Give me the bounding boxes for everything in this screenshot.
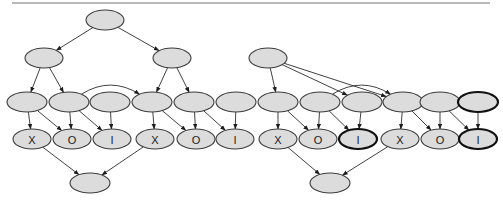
edge-l1-to-b1 (43, 147, 79, 174)
node-shape (310, 173, 350, 193)
edge-n8-to-l5 (162, 111, 186, 131)
edge-n5-to-l2 (37, 111, 61, 131)
node-shape (93, 129, 131, 149)
edge-n8-to-l4 (153, 112, 154, 129)
node-l11-O[interactable]: O (421, 129, 459, 149)
edge-n14-to-l11 (412, 111, 431, 130)
node-l10-X[interactable]: X (381, 129, 419, 149)
node-n3[interactable] (153, 48, 191, 68)
node-shape (249, 48, 287, 68)
edge-n12-to-l8 (319, 112, 320, 129)
node-n5[interactable] (7, 92, 47, 112)
edge-n5-to-l1 (28, 112, 30, 129)
node-shape (339, 129, 377, 149)
node-l6-I[interactable]: I (216, 129, 254, 149)
node-shape (53, 129, 91, 149)
top-divider-rule (12, 2, 490, 4)
node-l12-I[interactable]: I (459, 129, 497, 149)
node-n12[interactable] (300, 92, 340, 112)
node-n1[interactable] (86, 10, 124, 30)
graph-svg: XOIXOIXOIXOI (0, 0, 503, 209)
edge-n4-to-n11 (270, 68, 275, 92)
node-shape (420, 92, 460, 112)
node-l8-O[interactable]: O (299, 129, 337, 149)
node-n16[interactable] (458, 92, 498, 112)
node-shape (70, 173, 110, 193)
edge-l7-to-b2 (288, 147, 320, 174)
node-shape (299, 129, 337, 149)
edge-n7-to-l3 (111, 112, 112, 129)
edge-l10-to-b2 (342, 147, 387, 176)
node-shape (7, 92, 47, 112)
node-n11[interactable] (258, 92, 298, 112)
node-n9[interactable] (174, 92, 214, 112)
node-n6[interactable] (49, 92, 89, 112)
node-b1[interactable] (70, 173, 110, 193)
edge-n11-to-l8 (288, 111, 309, 131)
node-n8[interactable] (132, 92, 172, 112)
node-shape (259, 129, 297, 149)
node-shape (216, 92, 256, 112)
node-l7-X[interactable]: X (259, 129, 297, 149)
edge-l4-to-b1 (102, 147, 143, 175)
node-shape (90, 92, 130, 112)
node-shape (174, 92, 214, 112)
node-shape (177, 129, 215, 149)
node-shape (216, 129, 254, 149)
node-shape (459, 129, 497, 149)
node-shape (25, 48, 63, 68)
edge-n4-to-n13 (282, 65, 347, 96)
edge-n13-to-l9 (359, 112, 361, 129)
node-n13[interactable] (342, 92, 382, 112)
node-l5-O[interactable]: O (177, 129, 215, 149)
node-l4-X[interactable]: X (136, 129, 174, 149)
edge-n3-to-n9 (177, 68, 189, 93)
node-shape (421, 129, 459, 149)
node-n2[interactable] (25, 48, 63, 68)
diagram-canvas: XOIXOIXOIXOI (0, 0, 503, 209)
node-shape (86, 10, 124, 30)
edge-n15-to-l12 (449, 111, 469, 130)
edge-n9-to-l5 (195, 112, 196, 129)
node-l9-I[interactable]: I (339, 129, 377, 149)
node-l1-X[interactable]: X (13, 129, 51, 149)
edge-n6-to-l2 (70, 112, 71, 129)
node-shape (13, 129, 51, 149)
node-l2-O[interactable]: O (53, 129, 91, 149)
edge-n3-to-n8 (156, 68, 167, 93)
node-shape (342, 92, 382, 112)
node-n4[interactable] (249, 48, 287, 68)
edge-n12-to-l9 (329, 111, 349, 130)
node-shape (381, 129, 419, 149)
node-n14[interactable] (383, 92, 423, 112)
node-shape (49, 92, 89, 112)
edge-n6-to-l3 (79, 111, 102, 131)
edge-n4-to-n14 (284, 63, 386, 96)
edge-n2-to-n6 (49, 68, 63, 93)
edge-n2-to-n5 (31, 68, 40, 92)
edge-n1-to-n2 (56, 28, 92, 51)
node-n15[interactable] (420, 92, 460, 112)
node-n7[interactable] (90, 92, 130, 112)
node-n10[interactable] (216, 92, 256, 112)
node-shape (153, 48, 191, 68)
node-shape (300, 92, 340, 112)
node-b2[interactable] (310, 173, 350, 193)
node-shape (458, 92, 498, 112)
edge-n9-to-l6 (204, 111, 226, 131)
node-shape (383, 92, 423, 112)
edge-n1-to-n3 (118, 27, 159, 50)
node-layer: XOIXOIXOIXOI (7, 10, 498, 193)
edge-n14-to-l10 (401, 112, 402, 129)
node-l3-I[interactable]: I (93, 129, 131, 149)
node-shape (136, 129, 174, 149)
node-shape (258, 92, 298, 112)
node-shape (132, 92, 172, 112)
